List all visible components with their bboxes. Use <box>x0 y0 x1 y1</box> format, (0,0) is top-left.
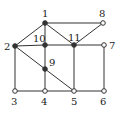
edges-layer <box>15 23 104 91</box>
node-7 <box>102 43 107 48</box>
node-label-7: 7 <box>109 40 115 51</box>
edge-9-5 <box>45 69 74 91</box>
node-4 <box>43 89 48 94</box>
node-8 <box>101 21 106 26</box>
node-label-6: 6 <box>100 96 106 107</box>
node-label-11: 11 <box>68 32 81 43</box>
node-6 <box>102 89 107 94</box>
node-label-1: 1 <box>42 8 48 19</box>
node-label-2: 2 <box>4 41 10 52</box>
node-5 <box>72 89 77 94</box>
node-label-8: 8 <box>99 8 105 19</box>
node-1 <box>43 21 48 26</box>
node-label-9: 9 <box>49 57 55 68</box>
node-11 <box>72 43 77 48</box>
node-label-5: 5 <box>71 96 77 107</box>
node-label-3: 3 <box>11 96 17 107</box>
node-3 <box>13 89 18 94</box>
node-2 <box>13 44 18 49</box>
node-9 <box>43 67 48 72</box>
node-label-10: 10 <box>33 33 46 44</box>
node-label-4: 4 <box>41 96 47 107</box>
edge-2-9 <box>15 46 45 69</box>
edge-2-10 <box>15 45 45 46</box>
graph-diagram: 1234567891011 <box>0 0 121 113</box>
